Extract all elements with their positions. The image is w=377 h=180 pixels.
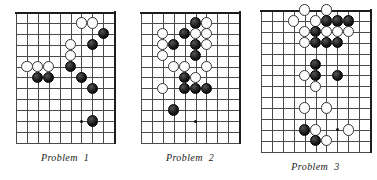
grid-line-horizontal bbox=[261, 152, 370, 153]
white-stone[interactable] bbox=[157, 83, 168, 94]
white-stone[interactable] bbox=[157, 28, 168, 39]
white-stone[interactable] bbox=[332, 26, 343, 37]
black-stone[interactable] bbox=[190, 83, 201, 94]
go-board-2[interactable] bbox=[141, 12, 239, 143]
grid-line-horizontal bbox=[16, 132, 114, 133]
black-stone[interactable] bbox=[65, 61, 76, 72]
white-stone[interactable] bbox=[321, 26, 332, 37]
black-stone[interactable] bbox=[190, 17, 201, 28]
black-stone[interactable] bbox=[179, 72, 190, 83]
black-stone[interactable] bbox=[179, 28, 190, 39]
white-stone[interactable] bbox=[288, 15, 299, 26]
black-stone[interactable] bbox=[190, 50, 201, 61]
black-stone[interactable] bbox=[168, 39, 179, 50]
white-stone[interactable] bbox=[321, 135, 332, 146]
caption-label: Problem bbox=[41, 152, 78, 163]
white-stone[interactable] bbox=[299, 70, 310, 81]
white-stone[interactable] bbox=[310, 124, 321, 135]
black-stone[interactable] bbox=[179, 83, 190, 94]
grid-line-vertical bbox=[272, 10, 273, 152]
black-stone[interactable] bbox=[32, 72, 43, 83]
black-stone[interactable] bbox=[321, 37, 332, 48]
white-stone[interactable] bbox=[299, 102, 310, 113]
white-stone[interactable] bbox=[343, 124, 354, 135]
black-stone[interactable] bbox=[332, 37, 343, 48]
white-stone[interactable] bbox=[201, 61, 212, 72]
grid-line-horizontal bbox=[141, 121, 239, 122]
black-stone[interactable] bbox=[299, 124, 310, 135]
board-edge-top bbox=[15, 12, 115, 14]
black-stone[interactable] bbox=[332, 70, 343, 81]
white-stone[interactable] bbox=[310, 15, 321, 26]
board-edge-top bbox=[260, 10, 371, 12]
white-stone[interactable] bbox=[201, 17, 212, 28]
white-stone[interactable] bbox=[65, 50, 76, 61]
white-stone[interactable] bbox=[157, 39, 168, 50]
white-stone[interactable] bbox=[168, 61, 179, 72]
white-stone[interactable] bbox=[87, 17, 98, 28]
white-stone[interactable] bbox=[321, 102, 332, 113]
white-stone[interactable] bbox=[190, 72, 201, 83]
grid-line-horizontal bbox=[16, 99, 114, 100]
white-stone[interactable] bbox=[179, 61, 190, 72]
board-edge-right bbox=[239, 11, 241, 144]
grid-line-vertical bbox=[141, 12, 142, 143]
white-stone[interactable] bbox=[157, 50, 168, 61]
white-stone[interactable] bbox=[76, 17, 87, 28]
grid-line-horizontal bbox=[16, 88, 114, 89]
white-stone[interactable] bbox=[201, 39, 212, 50]
black-stone[interactable] bbox=[87, 115, 98, 126]
white-stone[interactable] bbox=[310, 81, 321, 92]
grid-line-vertical bbox=[217, 12, 218, 143]
grid-line-vertical bbox=[261, 10, 262, 152]
black-stone[interactable] bbox=[310, 135, 321, 146]
grid-line-horizontal bbox=[16, 121, 114, 122]
grid-line-horizontal bbox=[16, 23, 114, 24]
caption-label: Problem bbox=[291, 161, 328, 172]
black-stone[interactable] bbox=[43, 72, 54, 83]
caption-number: 2 bbox=[209, 152, 214, 163]
grid-line-horizontal bbox=[141, 67, 239, 68]
white-stone[interactable] bbox=[299, 26, 310, 37]
white-stone[interactable] bbox=[299, 37, 310, 48]
black-stone[interactable] bbox=[87, 39, 98, 50]
grid-line-vertical bbox=[152, 12, 153, 143]
black-stone[interactable] bbox=[76, 72, 87, 83]
go-board-3[interactable] bbox=[261, 10, 370, 152]
grid-line-horizontal bbox=[141, 143, 239, 144]
white-stone[interactable] bbox=[190, 28, 201, 39]
white-stone[interactable] bbox=[201, 28, 212, 39]
grid-line-vertical bbox=[359, 10, 360, 152]
board-edge-top bbox=[140, 12, 240, 14]
black-stone[interactable] bbox=[87, 83, 98, 94]
black-stone[interactable] bbox=[332, 15, 343, 26]
white-stone[interactable] bbox=[32, 61, 43, 72]
board-edge-right bbox=[114, 11, 116, 144]
caption-label: Problem bbox=[166, 152, 203, 163]
problem-caption-2: Problem2 bbox=[127, 152, 253, 163]
black-stone[interactable] bbox=[321, 15, 332, 26]
grid-line-vertical bbox=[71, 12, 72, 143]
star-point bbox=[80, 120, 83, 123]
white-stone[interactable] bbox=[343, 26, 354, 37]
black-stone[interactable] bbox=[310, 26, 321, 37]
board-edge-right bbox=[370, 9, 372, 153]
black-stone[interactable] bbox=[343, 15, 354, 26]
black-stone[interactable] bbox=[168, 104, 179, 115]
go-board-1[interactable] bbox=[16, 12, 114, 143]
problem-caption-1: Problem1 bbox=[2, 152, 128, 163]
white-stone[interactable] bbox=[299, 4, 310, 15]
white-stone[interactable] bbox=[43, 61, 54, 72]
black-stone[interactable] bbox=[310, 70, 321, 81]
grid-line-vertical bbox=[228, 12, 229, 143]
white-stone[interactable] bbox=[21, 61, 32, 72]
grid-line-horizontal bbox=[141, 110, 239, 111]
black-stone[interactable] bbox=[201, 83, 212, 94]
white-stone[interactable] bbox=[321, 4, 332, 15]
white-stone[interactable] bbox=[65, 39, 76, 50]
black-stone[interactable] bbox=[98, 28, 109, 39]
black-stone[interactable] bbox=[190, 39, 201, 50]
grid-line-horizontal bbox=[16, 110, 114, 111]
black-stone[interactable] bbox=[310, 59, 321, 70]
black-stone[interactable] bbox=[310, 37, 321, 48]
